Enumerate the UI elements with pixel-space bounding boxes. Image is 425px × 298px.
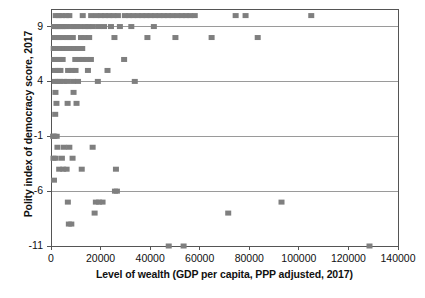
x-axis-label: Level of wealth (GDP per capita, PPP adj… [51,268,398,280]
data-point [115,13,121,18]
data-point [172,35,178,40]
data-point [64,167,70,172]
y-tick-label: -6 [15,184,43,196]
data-point [111,35,117,40]
data-point [308,13,314,18]
data-point [74,101,80,106]
data-point [61,145,67,150]
data-point [66,145,72,150]
data-point [65,200,71,205]
x-tick-label: 0 [48,252,54,264]
x-tick-label: 20000 [86,252,115,264]
data-point [70,35,76,40]
data-point [64,79,70,84]
y-tick-label: -1 [15,129,43,141]
data-point [114,189,120,194]
data-point [105,68,111,73]
data-point [279,200,285,205]
data-point [51,178,57,183]
data-point [151,24,157,29]
data-point [79,46,85,51]
data-point [53,156,59,161]
x-tick-label: 40000 [136,252,165,264]
data-point [77,24,83,29]
data-point [166,244,172,249]
data-point [54,145,60,150]
data-point [255,35,261,40]
scatter-chart: Polity index of democracy score, 2017 Le… [0,0,425,298]
data-point [192,13,198,18]
data-point [85,68,91,73]
data-point [225,211,231,216]
data-point [100,200,106,205]
data-point [79,167,85,172]
gridlines [51,27,398,246]
y-axis-label: Polity index of democracy score, 2017 [22,4,34,244]
data-point [88,13,94,18]
data-point [117,24,123,29]
data-point [113,167,119,172]
data-point [108,24,114,29]
data-point [52,112,58,117]
data-point [95,79,101,84]
data-point [90,24,96,29]
data-point [80,13,86,18]
data-point [73,68,79,73]
data-point [53,101,59,106]
data-point [71,90,77,95]
data-point [181,244,187,249]
x-tick-label: 120000 [331,252,366,264]
data-point [90,145,96,150]
data-point [88,57,94,62]
data-point [96,24,102,29]
data-point [68,222,74,227]
data-point [70,156,76,161]
data-point [57,68,63,73]
data-point [65,101,71,106]
data-point [121,57,127,62]
data-point [54,134,60,139]
data-point [59,156,65,161]
y-tick-label: 4 [15,74,43,86]
data-point [66,13,72,18]
data-point [75,79,81,84]
x-tick-label: 100000 [281,252,316,264]
data-point [92,211,98,216]
data-point [101,24,107,29]
data-point [209,35,215,40]
data-point [86,35,92,40]
data-markers [50,13,372,248]
data-point [52,90,58,95]
data-point [243,13,249,18]
y-tick-label: -11 [15,239,43,251]
data-point [132,79,138,84]
data-point [144,35,150,40]
data-point [60,57,66,62]
data-point [233,13,239,18]
x-tick-label: 140000 [380,252,415,264]
data-point [128,24,134,29]
y-tick-label: 9 [15,20,43,32]
x-tick-label: 80000 [235,252,264,264]
tick-marks [47,27,398,250]
plot-frame [51,9,398,246]
x-tick-label: 60000 [185,252,214,264]
data-point [366,244,372,249]
